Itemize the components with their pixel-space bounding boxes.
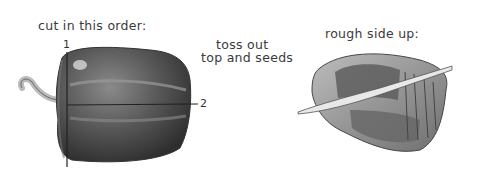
pepper-half-icon bbox=[298, 54, 452, 151]
whole-pepper-icon bbox=[21, 47, 198, 167]
toss-caption-line2: top and seeds bbox=[201, 51, 293, 64]
cut-label-1: 1 bbox=[63, 38, 70, 51]
cut-order-caption: cut in this order: bbox=[38, 19, 147, 32]
cut-label-2: 2 bbox=[200, 97, 207, 110]
rough-side-caption: rough side up: bbox=[325, 27, 419, 40]
